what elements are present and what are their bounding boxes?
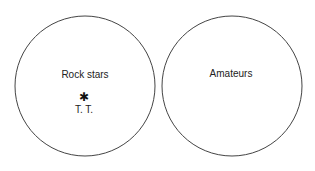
member-marker-icon: ✱: [79, 90, 89, 104]
rock-stars-label: Rock stars: [61, 69, 108, 80]
rock-stars-set-circle: [15, 16, 155, 156]
set-diagram: Rock stars ✱ T. T. Amateurs: [0, 0, 315, 171]
amateurs-set-circle: [162, 16, 302, 156]
amateurs-label: Amateurs: [210, 68, 253, 79]
member-label: T. T.: [75, 104, 93, 115]
